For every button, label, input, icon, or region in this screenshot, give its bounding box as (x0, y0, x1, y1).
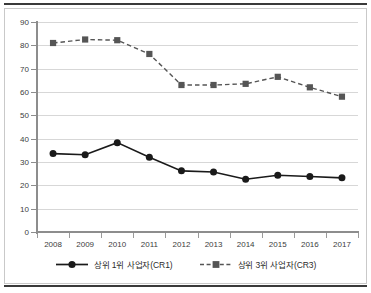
gridline (37, 139, 358, 140)
legend-label-cr1: 상위 1위 사업자(CR1) (94, 258, 173, 270)
y-tick-label: 70 (3, 64, 29, 73)
legend-marker-square-icon (199, 259, 233, 270)
x-tick-mark (358, 233, 359, 238)
x-tick-mark (326, 233, 327, 238)
y-tick-label: 90 (3, 18, 29, 27)
x-tick-mark (101, 233, 102, 238)
x-tick-mark (262, 233, 263, 238)
gridline (37, 45, 358, 46)
y-tick-label: 0 (3, 228, 29, 237)
x-tick-label: 2017 (322, 240, 362, 249)
x-tick-mark (230, 233, 231, 238)
x-tick-mark (165, 233, 166, 238)
bottom-rule (4, 285, 367, 287)
x-tick-mark (294, 233, 295, 238)
x-tick-mark (198, 233, 199, 238)
y-axis-line (36, 21, 38, 234)
y-tick-label: 30 (3, 158, 29, 167)
y-tick-label: 60 (3, 88, 29, 97)
x-tick-mark (133, 233, 134, 238)
legend-marker-circle-icon (55, 259, 89, 270)
chart-figure: 0102030405060708090 20082009201020112012… (0, 0, 371, 293)
y-tick-label: 10 (3, 204, 29, 213)
gridline (37, 69, 358, 70)
gridline (37, 115, 358, 116)
gridline (37, 209, 358, 210)
gridline (37, 92, 358, 93)
gridline (37, 185, 358, 186)
legend-label-cr3: 상위 3위 사업자(CR3) (238, 258, 317, 270)
legend-entry-cr1[interactable]: 상위 1위 사업자(CR1) (55, 258, 173, 270)
x-tick-mark (69, 233, 70, 238)
y-tick-label: 20 (3, 181, 29, 190)
x-axis-line (36, 231, 359, 233)
top-rule (4, 3, 367, 5)
gridline (37, 162, 358, 163)
gridline (37, 22, 358, 23)
y-tick-label: 50 (3, 111, 29, 120)
y-tick-label: 40 (3, 134, 29, 143)
legend-entry-cr3[interactable]: 상위 3위 사업자(CR3) (199, 258, 317, 270)
y-tick-label: 80 (3, 41, 29, 50)
chart-legend: 상위 1위 사업자(CR1) 상위 3위 사업자(CR3) (0, 258, 371, 270)
